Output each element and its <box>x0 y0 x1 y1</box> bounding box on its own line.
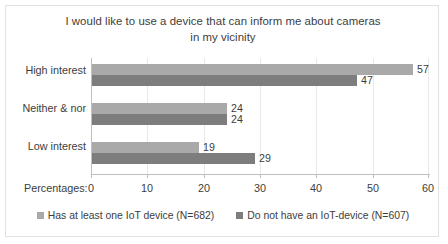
legend-swatch-icon-has-iot <box>37 212 44 219</box>
tick-label-0: 0 <box>76 181 106 195</box>
bar-value-high-interest-has-iot: 57 <box>417 64 429 75</box>
category-axis-labels: High interest Neither & nor Low interest <box>6 58 86 174</box>
bar-value-low-interest-has-iot: 19 <box>203 142 215 153</box>
chart-container: I would like to use a device that can in… <box>5 5 439 237</box>
tick-mark-30 <box>260 174 261 178</box>
legend-label-has-iot: Has at least one IoT device (N=682) <box>48 210 214 221</box>
tick-mark-50 <box>373 174 374 178</box>
legend-label-no-iot: Do not have an IoT-device (N=607) <box>247 210 409 221</box>
category-label-neither-nor: Neither & nor <box>2 102 86 114</box>
category-label-low-interest: Low interest <box>2 140 86 152</box>
tick-label-40: 40 <box>301 181 331 195</box>
bar-value-neither-nor-no-iot: 24 <box>231 114 243 125</box>
tick-label-50: 50 <box>358 181 388 195</box>
tick-mark-60 <box>428 174 429 178</box>
chart-title-line-1: I would like to use a device that can in… <box>6 14 440 30</box>
bar-low-interest-no-iot[interactable] <box>92 153 255 164</box>
tick-label-30: 30 <box>245 181 275 195</box>
chart-legend: Has at least one IoT device (N=682) Do n… <box>6 210 440 221</box>
bar-value-low-interest-no-iot: 29 <box>259 153 271 164</box>
bar-group-neither-nor: 24 24 <box>91 103 429 125</box>
tick-mark-0 <box>91 174 92 178</box>
legend-item-no-iot[interactable]: Do not have an IoT-device (N=607) <box>236 210 409 221</box>
plot-area: 57 47 24 24 19 29 <box>91 58 429 174</box>
bar-group-high-interest: 57 47 <box>91 64 429 86</box>
tick-label-20: 20 <box>189 181 219 195</box>
bar-low-interest-has-iot[interactable] <box>92 142 199 153</box>
bar-value-high-interest-no-iot: 47 <box>361 75 373 86</box>
bar-group-low-interest: 19 29 <box>91 142 429 164</box>
tick-label-10: 10 <box>132 181 162 195</box>
tick-mark-20 <box>204 174 205 178</box>
category-label-high-interest: High interest <box>2 64 86 76</box>
value-axis-tick-labels: 0 10 20 30 40 50 60 <box>6 181 440 197</box>
tick-label-60: 60 <box>413 181 443 195</box>
tick-mark-10 <box>147 174 148 178</box>
chart-title-line-2: in my vicinity <box>6 30 440 46</box>
legend-item-has-iot[interactable]: Has at least one IoT device (N=682) <box>37 210 214 221</box>
tick-mark-40 <box>316 174 317 178</box>
bar-high-interest-no-iot[interactable] <box>92 75 357 86</box>
bar-neither-nor-has-iot[interactable] <box>92 103 227 114</box>
legend-swatch-icon-no-iot <box>236 212 243 219</box>
bar-neither-nor-no-iot[interactable] <box>92 114 227 125</box>
chart-title: I would like to use a device that can in… <box>6 14 440 45</box>
